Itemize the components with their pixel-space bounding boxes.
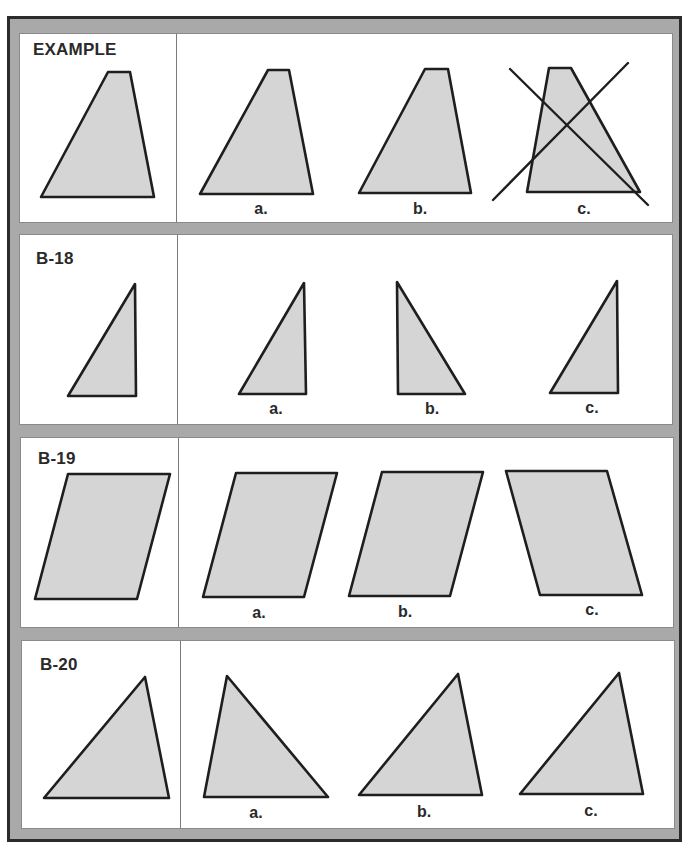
option-a[interactable]: a. [200, 70, 313, 217]
option-b-label: b. [417, 803, 431, 820]
option-a-triangle [204, 676, 328, 797]
example-group: a. b. c. [41, 63, 648, 217]
option-a-triangle [239, 283, 306, 394]
option-b-trapezoid [359, 69, 471, 193]
option-c[interactable]: c. [493, 63, 648, 217]
option-c-parallelogram [506, 471, 642, 595]
b-18-group: a. b. c. [68, 281, 618, 417]
option-a-label: a. [252, 604, 265, 621]
option-c[interactable]: c. [550, 281, 618, 416]
option-b-triangle [359, 674, 482, 795]
option-a-label: a. [254, 200, 267, 217]
option-c[interactable]: c. [520, 673, 643, 819]
option-c-triangle [550, 281, 618, 393]
option-c-triangle [520, 673, 643, 794]
option-b[interactable]: b. [349, 472, 483, 620]
option-c-label: c. [577, 200, 590, 217]
option-a-label: a. [249, 804, 262, 821]
option-b-label: b. [425, 400, 439, 417]
option-b-label: b. [398, 603, 412, 620]
reference-parallelogram [35, 474, 170, 599]
option-b[interactable]: b. [397, 282, 465, 417]
reference-triangle [44, 677, 169, 798]
option-a[interactable]: a. [204, 676, 328, 821]
option-a-parallelogram [203, 473, 337, 597]
option-c[interactable]: c. [506, 471, 642, 618]
reference-trapezoid [41, 72, 154, 197]
option-b[interactable]: b. [359, 674, 482, 820]
option-b-triangle [397, 282, 465, 394]
option-c-trapezoid [527, 68, 640, 192]
b-19-group: a. b. c. [35, 471, 642, 621]
option-c-label: c. [584, 802, 597, 819]
option-a-label: a. [269, 400, 282, 417]
b-20-group: a. b. c. [44, 673, 643, 821]
option-a[interactable]: a. [203, 473, 337, 621]
option-a[interactable]: a. [239, 283, 306, 417]
option-c-label: c. [585, 601, 598, 618]
option-a-trapezoid [200, 70, 313, 194]
option-b-parallelogram [349, 472, 483, 596]
shapes-layer: a. b. c. a. b. c. [0, 0, 690, 853]
option-b-label: b. [413, 200, 427, 217]
option-b[interactable]: b. [359, 69, 471, 217]
worksheet: EXAMPLE B-18 B-19 B-20 a. b. c. [0, 0, 690, 853]
option-c-label: c. [585, 399, 598, 416]
reference-triangle [68, 284, 136, 396]
